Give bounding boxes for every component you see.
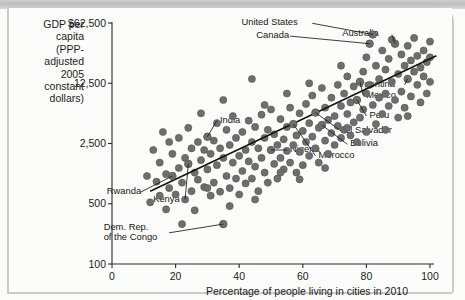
data-point [411,68,418,75]
data-point [388,78,395,85]
data-point [382,66,389,73]
data-point [277,116,284,123]
data-point [261,101,268,108]
data-point [239,128,246,135]
data-point [223,172,230,179]
data-point [277,169,284,176]
data-point [188,145,195,152]
data-point [309,133,316,140]
data-point [331,141,338,148]
data-point [350,83,357,90]
data-point [169,150,176,157]
annotated-data-point [290,120,298,128]
data-point [372,62,379,69]
data-point [217,188,224,195]
data-point [271,160,278,167]
data-point [248,75,255,82]
data-point [401,62,408,69]
data-point [226,203,233,210]
data-point [258,111,265,118]
data-point [296,110,303,117]
data-point [255,145,262,152]
data-point [147,199,154,206]
data-point [267,106,274,113]
data-point [274,141,281,148]
data-point [411,34,418,41]
data-point [248,175,255,182]
data-point [255,188,262,195]
data-point [226,141,233,148]
data-point [296,176,303,183]
data-point [350,119,357,126]
data-point [353,138,360,145]
data-point [290,141,297,148]
data-point [312,145,319,152]
data-point [159,128,166,135]
data-point [178,179,185,186]
data-point [175,134,182,141]
data-point [423,90,430,97]
data-point [236,191,243,198]
data-point [261,169,268,176]
data-point [306,120,313,127]
data-point [204,185,211,192]
data-point [318,84,325,91]
data-point [401,104,408,111]
data-point [264,179,271,186]
data-point [385,102,392,109]
data-point [407,93,414,100]
data-point [252,163,259,170]
data-point [395,114,402,121]
data-point [207,192,214,199]
data-point [201,146,208,153]
data-point [229,159,236,166]
data-point [337,102,344,109]
data-point [309,92,316,99]
data-point [172,191,179,198]
annotation-leader-line [169,224,223,233]
data-point [382,90,389,97]
data-point [287,104,294,111]
annotated-data-point [312,109,320,117]
data-point [194,176,201,183]
data-point [420,73,427,80]
data-point [376,94,383,101]
data-point [344,110,351,117]
data-point [302,100,309,107]
data-point [398,88,405,95]
data-point [369,101,376,108]
data-point [166,185,173,192]
data-point [188,188,195,195]
data-point [163,206,170,213]
data-point [287,159,294,166]
data-point [356,114,363,121]
data-point [334,81,341,88]
data-point [283,147,290,154]
data-point [328,94,335,101]
data-point [296,148,303,155]
data-point [220,96,227,103]
data-point [143,172,150,179]
data-point [150,146,157,153]
data-point [363,128,370,135]
data-point [420,47,427,54]
data-point [283,90,290,97]
data-point [344,73,351,80]
data-point [166,138,173,145]
data-point [293,132,300,139]
data-point [379,47,386,54]
data-point [178,221,185,228]
data-point [404,113,411,120]
data-point [217,145,224,152]
data-point [404,42,411,49]
data-point [417,99,424,106]
data-point [306,80,313,87]
data-point [322,164,329,171]
data-point [426,78,433,85]
data-point [407,57,414,64]
data-point [337,62,344,69]
data-point [252,123,259,130]
data-point [315,159,322,166]
data-point [197,110,204,117]
scatter-chart: GDP per capita (PPP- adjusted 2005 const… [0,0,465,300]
